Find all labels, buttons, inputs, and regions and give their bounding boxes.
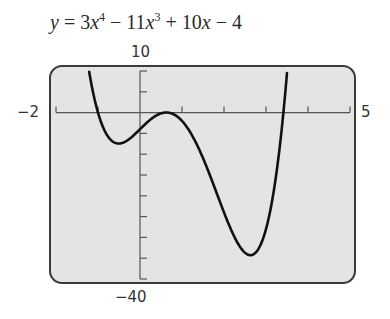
graph-window — [0, 0, 390, 319]
graph-frame — [50, 66, 355, 283]
